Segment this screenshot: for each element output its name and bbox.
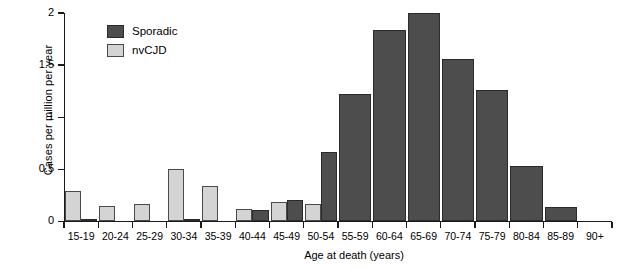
x-tick-label-90+: 90+ — [570, 231, 620, 242]
bar-nvcjd-15-19 — [65, 191, 81, 221]
legend-label-nvcjd: nvCJD — [132, 45, 167, 57]
bar-nvcjd-25-29 — [134, 204, 150, 222]
bar-chart: Cases per million per year 00.511.52 15-… — [0, 0, 624, 269]
x-tick-2 — [132, 222, 133, 228]
x-tick-16 — [611, 222, 612, 228]
bar-nvcjd-35-39 — [202, 186, 218, 221]
x-tick-4 — [200, 222, 201, 228]
bar-sporadic-40-44 — [252, 210, 268, 221]
x-axis-title-wrapper: Age at death (years) — [0, 249, 624, 261]
bar-sporadic-70-74 — [442, 59, 474, 222]
x-tick-9 — [372, 222, 373, 228]
x-tick-6 — [269, 222, 270, 228]
x-tick-11 — [440, 222, 441, 228]
legend-label-sporadic: Sporadic — [132, 26, 177, 38]
x-tick-10 — [406, 222, 407, 228]
sporadic-swatch-icon — [107, 25, 124, 38]
bar-sporadic-80-84 — [510, 166, 542, 221]
legend-item-nvcjd: nvCJD — [107, 41, 177, 60]
chart-legend: Sporadic nvCJD — [107, 22, 177, 60]
x-axis-title: Age at death (years) — [304, 249, 404, 261]
x-tick-14 — [543, 222, 544, 228]
x-tick-12 — [474, 222, 475, 228]
x-tick-1 — [98, 222, 99, 228]
bar-nvcjd-20-24 — [99, 206, 115, 222]
bar-sporadic-50-54 — [321, 152, 337, 222]
x-tick-13 — [509, 222, 510, 228]
nvcjd-swatch-icon — [107, 44, 124, 57]
bar-sporadic-65-69 — [408, 13, 440, 221]
x-tick-5 — [235, 222, 236, 228]
bar-nvcjd-50-54 — [305, 204, 321, 222]
legend-item-sporadic: Sporadic — [107, 22, 177, 41]
x-tick-15 — [577, 222, 578, 228]
x-tick-7 — [303, 222, 304, 228]
bar-nvcjd-30-34 — [168, 169, 184, 221]
plot-area — [0, 0, 624, 269]
x-tick-3 — [166, 222, 167, 228]
x-tick-0 — [63, 222, 64, 228]
bar-sporadic-75-79 — [476, 90, 508, 221]
bar-nvcjd-45-49 — [271, 202, 287, 222]
bar-nvcjd-40-44 — [236, 209, 252, 222]
x-tick-8 — [337, 222, 338, 228]
bar-sporadic-45-49 — [287, 200, 303, 222]
bar-sporadic-85-89 — [545, 207, 577, 222]
bar-sporadic-60-64 — [373, 30, 405, 222]
bar-sporadic-55-59 — [339, 94, 371, 221]
